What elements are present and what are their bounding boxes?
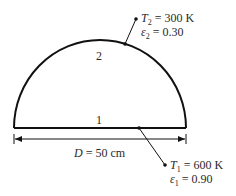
dimension-label: D = 50 cm [73, 146, 126, 160]
surface-2-emissivity: ε2 = 0.30 [141, 25, 184, 41]
semicircular-enclosure-diagram: 2 1 D = 50 cm T2 = 300 K ε2 = 0.30 T1 = … [0, 0, 236, 196]
leader-end-dot-2 [134, 17, 138, 21]
surface-1-label: 1 [96, 113, 102, 127]
leader-end-dot-1 [163, 163, 167, 167]
surface-2-label: 2 [96, 49, 102, 63]
leader-line-surface-2 [125, 19, 136, 44]
surface-1-emissivity: ε1 = 0.90 [170, 172, 213, 188]
leader-line-surface-1 [139, 128, 165, 165]
